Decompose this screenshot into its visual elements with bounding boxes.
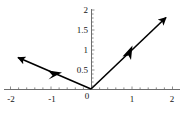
y-tick-label-0-5: 0.5 <box>77 66 88 75</box>
x-tick-label-1: 1 <box>130 95 135 104</box>
x-tick-label-neg-1: -1 <box>48 95 56 104</box>
absolute-value-plot: -2 -1 1 2 0 0.5 1 1.5 2 <box>0 0 182 117</box>
x-tick-label-neg-2: -2 <box>7 95 15 104</box>
plot-canvas <box>0 0 182 117</box>
y-tick-label-1: 1 <box>84 46 89 55</box>
y-axis <box>92 9 95 90</box>
x-tick-label-2: 2 <box>170 95 175 104</box>
right-ray <box>91 18 166 90</box>
y-tick-label-2: 2 <box>84 6 89 15</box>
y-tick-label-1-5: 1.5 <box>77 26 88 35</box>
origin-label: 0 <box>85 92 90 101</box>
